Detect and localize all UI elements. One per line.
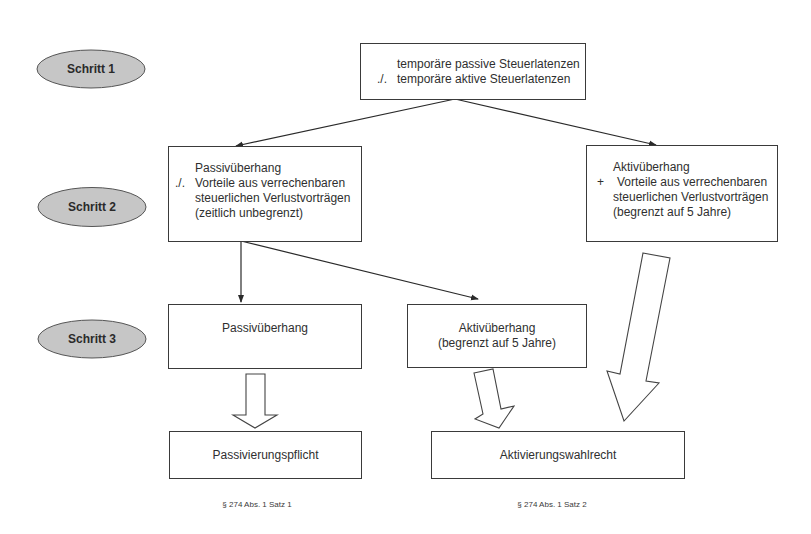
step-3-label: Schritt 3 [38,320,146,358]
footnote-satz-1: § 274 Abs. 1 Satz 1 [222,500,291,509]
box-label-line1: Aktivüberhang [459,321,536,336]
line-prefix [593,190,613,205]
box-label: Passivierungspflicht [212,448,318,463]
line-prefix [377,57,397,72]
line-text: steuerlichen Verlustvorträgen [195,191,350,206]
arrow-passiv-to-aktiv-step3 [241,241,478,299]
line-prefix [593,160,613,175]
line-prefix [175,161,195,176]
box-line: temporäre passive Steuerlatenzen [377,57,585,72]
box-label-line2: (begrenzt auf 5 Jahre) [438,336,556,351]
hollow-arrow-aktiv-large-icon [607,253,670,421]
box-label: Passivüberhang [222,321,308,335]
box-line: ./. Vorteile aus verrechenbaren [175,176,361,191]
box-aktivierungswahlrecht: Aktivierungswahlrecht [431,431,685,479]
box-passivierungspflicht: Passivierungspflicht [169,431,362,479]
hollow-arrow-aktiv-small-icon [474,369,514,428]
line-text: (zeitlich unbegrenzt) [195,206,303,221]
line-text: (begrenzt auf 5 Jahre) [613,205,731,220]
arrow-top-to-aktiv [455,99,656,145]
line-prefix [593,205,613,220]
box-line: Aktivüberhang [593,160,777,175]
line-text: Vorteile aus verrechenbaren [195,176,345,191]
box-temporaere-steuerlatenzen: temporäre passive Steuerlatenzen ./. tem… [360,43,586,100]
line-text: Aktivüberhang [613,160,690,175]
line-text: Passivüberhang [195,161,281,176]
box-line: steuerlichen Verlustvorträgen [175,191,361,206]
box-line: (zeitlich unbegrenzt) [175,206,361,221]
box-line: (begrenzt auf 5 Jahre) [593,205,777,220]
line-text: temporäre aktive Steuerlatenzen [397,72,570,87]
line-text: Vorteile aus verrechenbaren [617,175,767,190]
line-prefix: ./. [175,176,195,191]
box-line: steuerlichen Verlustvorträgen [593,190,777,205]
box-line: + Vorteile aus verrechenbaren [593,175,777,190]
line-text: temporäre passive Steuerlatenzen [397,57,580,72]
footnote-satz-2: § 274 Abs. 1 Satz 2 [517,500,586,509]
box-label: Aktivierungswahlrecht [500,448,617,463]
box-aktivueberhang-step2: Aktivüberhang + Vorteile aus verrechenba… [586,145,778,242]
hollow-arrow-passivierungspflicht-icon [233,374,277,428]
box-line: ./. temporäre aktive Steuerlatenzen [377,72,585,87]
diagram-canvas: Schritt 1 Schritt 2 Schritt 3 temporäre … [0,0,811,534]
box-passivueberhang-step2: Passivüberhang ./. Vorteile aus verreche… [168,146,362,242]
box-aktivueberhang-step3: Aktivüberhang (begrenzt auf 5 Jahre) [407,304,587,368]
line-text: steuerlichen Verlustvorträgen [613,190,768,205]
line-prefix [175,191,195,206]
line-prefix [175,206,195,221]
arrow-top-to-passiv [236,99,455,146]
step-1-label: Schritt 1 [37,50,145,88]
line-prefix: ./. [377,72,397,87]
box-passivueberhang-step3: Passivüberhang [168,304,362,369]
line-prefix: + [593,175,617,190]
box-line: Passivüberhang [175,161,361,176]
step-2-label: Schritt 2 [38,188,146,226]
